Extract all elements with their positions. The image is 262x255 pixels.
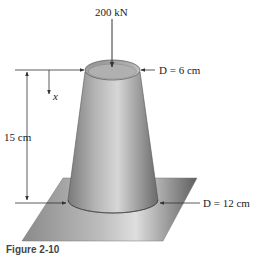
top-diameter-label: D = 6 cm: [159, 65, 200, 76]
tapered-column: [68, 72, 158, 213]
height-label: 15 cm: [4, 132, 31, 143]
figure-caption: Figure 2-10: [6, 244, 59, 255]
x-coordinate-label: x: [53, 91, 58, 102]
bottom-diameter-label: D = 12 cm: [203, 198, 250, 209]
load-label: 200 kN: [95, 7, 128, 18]
